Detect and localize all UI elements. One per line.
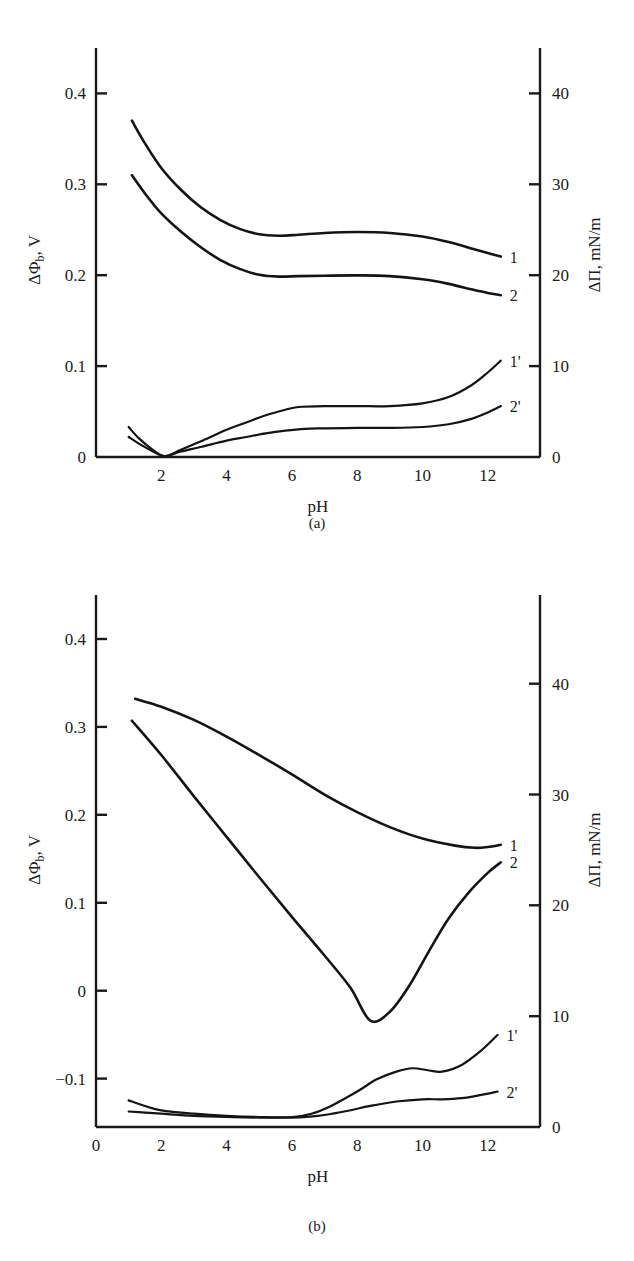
series-label-1: 1 xyxy=(510,249,518,266)
y2-tick-label: 20 xyxy=(552,896,569,915)
y2-tick-label: 40 xyxy=(552,84,569,103)
y2-tick-label: 0 xyxy=(552,448,561,467)
y-tick-label: −0.1 xyxy=(55,1070,86,1089)
series-label-1: 1 xyxy=(510,837,518,854)
y-tick-label: 0 xyxy=(78,448,87,467)
y2-tick-label: 10 xyxy=(552,1007,569,1026)
y-axis-title: ΔΦb, V xyxy=(25,234,47,285)
y2-tick-label: 0 xyxy=(552,1118,561,1137)
x-tick-label: 8 xyxy=(353,1136,362,1155)
series-label-1-prime: 1' xyxy=(507,1027,518,1044)
series-curve-2 xyxy=(132,175,501,295)
series-label-2-prime: 2' xyxy=(507,1084,518,1101)
y-tick-label: 0.3 xyxy=(65,175,86,194)
x-tick-label: 6 xyxy=(288,1136,297,1155)
x-tick-label: 10 xyxy=(414,466,431,485)
y-tick-label: 0.4 xyxy=(65,84,87,103)
y2-tick-label: 20 xyxy=(552,266,569,285)
y2-tick-label: 30 xyxy=(552,175,569,194)
y-tick-label: 0.1 xyxy=(65,357,86,376)
series-curve-2 xyxy=(132,721,501,1022)
figure-panel-b: −0.100.10.20.30.4010203040024681012pHΔΦb… xyxy=(0,560,634,1261)
y2-tick-label: 10 xyxy=(552,357,569,376)
y-tick-label: 0.4 xyxy=(65,630,87,649)
y-tick-label: 0.3 xyxy=(65,718,86,737)
x-tick-label: 8 xyxy=(353,466,362,485)
x-tick-label: 6 xyxy=(288,466,297,485)
y2-axis-title: ΔΠ, mN/m xyxy=(585,217,604,292)
y-tick-label: 0.1 xyxy=(65,894,86,913)
x-axis-title: pH xyxy=(308,1167,329,1186)
y2-axis-title: ΔΠ, mN/m xyxy=(585,812,604,887)
x-tick-label: 2 xyxy=(157,466,166,485)
x-tick-label: 4 xyxy=(222,1136,231,1155)
y2-tick-label: 30 xyxy=(552,786,569,805)
y-axis-title: ΔΦb, V xyxy=(25,834,47,885)
panel-a-caption: (a) xyxy=(0,515,634,532)
x-axis-title: pH xyxy=(308,497,329,516)
x-tick-label: 2 xyxy=(157,1136,166,1155)
series-label-2: 2 xyxy=(510,854,518,871)
y-tick-label: 0.2 xyxy=(65,806,86,825)
x-tick-label: 0 xyxy=(92,1136,101,1155)
y-tick-label: 0.2 xyxy=(65,266,86,285)
x-tick-label: 12 xyxy=(479,466,496,485)
x-tick-label: 10 xyxy=(414,1136,431,1155)
y-tick-label: 0 xyxy=(78,982,87,1001)
series-curve-1 xyxy=(135,699,501,848)
series-label-1-prime: 1' xyxy=(510,353,521,370)
panel-b-caption: (b) xyxy=(0,1218,634,1235)
series-label-2-prime: 2' xyxy=(510,398,521,415)
series-curve-1-prime xyxy=(129,1035,498,1117)
series-curve-1-prime xyxy=(129,361,501,456)
x-tick-label: 12 xyxy=(479,1136,496,1155)
figure-panel-a: 00.10.20.30.401020304024681012pHΔΦb, VΔΠ… xyxy=(0,0,634,560)
series-label-2: 2 xyxy=(510,287,518,304)
chart-b-canvas: −0.100.10.20.30.4010203040024681012pHΔΦb… xyxy=(0,560,634,1261)
y2-tick-label: 40 xyxy=(552,675,569,694)
chart-a-canvas: 00.10.20.30.401020304024681012pHΔΦb, VΔΠ… xyxy=(0,0,634,560)
x-tick-label: 4 xyxy=(222,466,231,485)
